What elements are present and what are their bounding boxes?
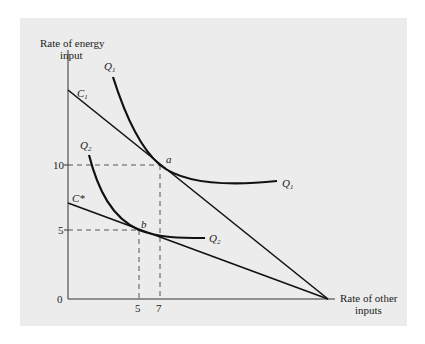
point-b-label: b bbox=[141, 218, 147, 230]
point-a-label: a bbox=[166, 153, 172, 165]
q1-label-top: Q1 bbox=[104, 60, 115, 76]
origin-label: 0 bbox=[57, 293, 63, 305]
x-tick-label-7: 7 bbox=[156, 302, 162, 314]
y-axis-label-line2: input bbox=[60, 49, 83, 61]
isoquant-curve-q1 bbox=[113, 77, 277, 184]
y-tick-label-10: 10 bbox=[53, 159, 64, 171]
x-tick-label-5: 5 bbox=[135, 302, 141, 314]
isocost-line-c1 bbox=[68, 90, 328, 299]
isocost-line-cstar bbox=[68, 203, 328, 299]
x-axis-label-line2: inputs bbox=[355, 304, 382, 316]
q2-label-top: Q2 bbox=[80, 139, 91, 155]
q1-label-right: Q1 bbox=[282, 177, 293, 193]
isoquant-curve-q2 bbox=[89, 155, 205, 238]
cstar-label: C* bbox=[72, 192, 85, 204]
x-axis-label-line1: Rate of other bbox=[340, 292, 397, 304]
c1-label: C1 bbox=[77, 87, 88, 103]
q2-label-right: Q2 bbox=[209, 232, 220, 248]
y-axis-label-line1: Rate of energy bbox=[40, 37, 105, 49]
y-tick-label-5: 5 bbox=[58, 224, 64, 236]
